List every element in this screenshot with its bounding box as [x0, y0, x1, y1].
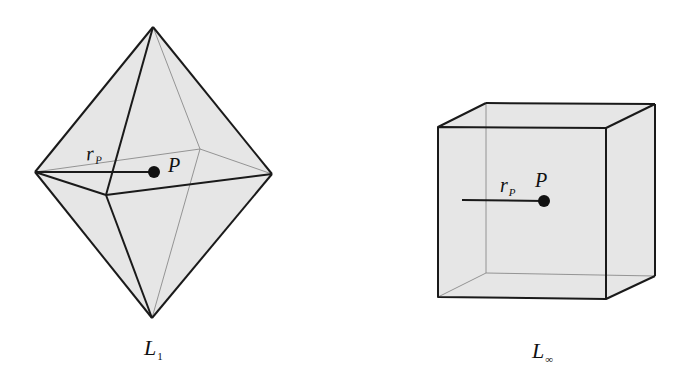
- radius-label-sub: P: [95, 153, 103, 165]
- radius-label-main: r: [500, 174, 508, 196]
- caption-main: L: [532, 338, 544, 363]
- octahedron-shape: [35, 27, 272, 318]
- cube-shape: [438, 103, 655, 299]
- radius-label-main: r: [85, 142, 94, 164]
- caption-sub: 1: [157, 350, 163, 362]
- diagram-canvas: [0, 0, 679, 382]
- cube-radius-line: [462, 200, 544, 201]
- cube-caption: L∞: [532, 340, 553, 362]
- cube-center-point: [538, 195, 550, 207]
- point-label: P: [535, 169, 547, 191]
- octahedron-caption: L1: [144, 337, 163, 359]
- octahedron-radius-label: rP: [85, 142, 102, 163]
- cube-radius-label: rP: [500, 175, 516, 195]
- point-label: P: [168, 154, 180, 176]
- radius-label-sub: P: [509, 186, 516, 198]
- octahedron-point-label: P: [168, 155, 180, 175]
- cube-point-label: P: [535, 170, 547, 190]
- octahedron-center-point: [148, 166, 160, 178]
- caption-sub: ∞: [545, 353, 553, 365]
- caption-main: L: [144, 335, 156, 360]
